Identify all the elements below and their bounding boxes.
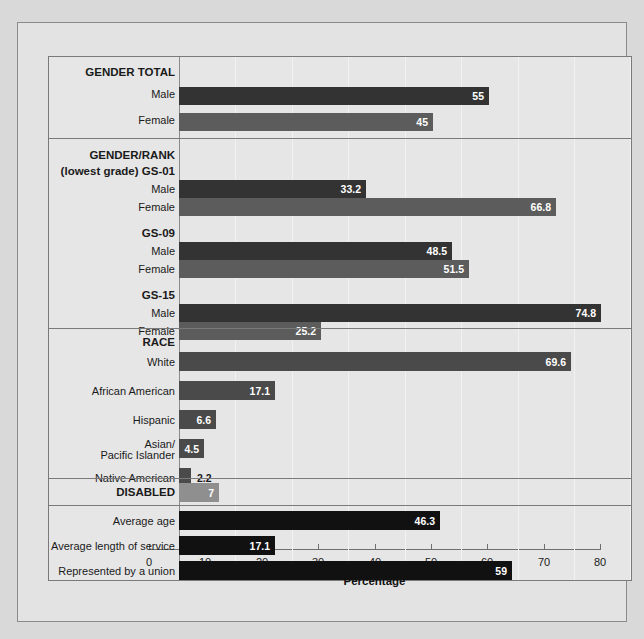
bar-represented-by-union[interactable]: 59 bbox=[179, 561, 512, 580]
bar-disabled[interactable]: 7 bbox=[179, 483, 219, 502]
bar-average-age[interactable]: 46.3 bbox=[179, 511, 440, 530]
row-average-age: Average age 46.3 bbox=[49, 511, 631, 536]
bar-gs01-male[interactable]: 33.2 bbox=[179, 180, 366, 198]
bar-value-hispanic: 6.6 bbox=[196, 414, 211, 425]
row-label-average-length-of-service: Average length of service bbox=[20, 536, 175, 556]
bar-average-length-of-service[interactable]: 17.1 bbox=[179, 536, 275, 555]
subheading-gs15: GS-15 bbox=[20, 287, 175, 304]
row-disabled: DISABLED 7 bbox=[49, 483, 631, 503]
asian-label-line2: Pacific Islander bbox=[20, 450, 175, 461]
row-gs15-heading: GS-15 bbox=[49, 287, 631, 304]
bar-value-gs01-female: 66.8 bbox=[531, 202, 551, 213]
bar-value-represented-by-union: 59 bbox=[495, 565, 507, 576]
chart-plot-panel: GENDER TOTAL Male 55 Female 45 bbox=[48, 56, 632, 581]
spacer-gs09-gs15 bbox=[49, 278, 631, 287]
row-label-gs09-female: Female bbox=[20, 260, 175, 278]
subheading-gs01: (lowest grade) GS-01 bbox=[20, 163, 175, 180]
row-female-total: Female 45 bbox=[49, 109, 631, 137]
row-label-hispanic: Hispanic bbox=[20, 410, 175, 430]
row-label-represented-by-union: Represented by a union bbox=[20, 561, 175, 581]
group-summary: Average age 46.3 Average length of servi… bbox=[49, 505, 631, 578]
row-hispanic: Hispanic 6.6 bbox=[49, 410, 631, 439]
row-label-female: Female bbox=[20, 109, 175, 131]
bar-value-average-age: 46.3 bbox=[415, 515, 435, 526]
row-gs09-male: Male 48.5 bbox=[49, 242, 631, 260]
bar-white[interactable]: 69.6 bbox=[179, 352, 571, 371]
row-race-heading: RACE bbox=[49, 333, 631, 352]
heading-disabled: DISABLED bbox=[20, 483, 175, 502]
row-gs01-female: Female 66.8 bbox=[49, 198, 631, 216]
row-male-total: Male 55 bbox=[49, 83, 631, 109]
bar-gs15-male[interactable]: 74.8 bbox=[179, 304, 601, 322]
row-gs09-heading: GS-09 bbox=[49, 225, 631, 242]
row-gs09-female: Female 51.5 bbox=[49, 260, 631, 278]
row-label-average-age: Average age bbox=[20, 511, 175, 531]
spacer-gs01-gs09 bbox=[49, 216, 631, 225]
row-label-gs15-male: Male bbox=[20, 304, 175, 322]
group-disabled: DISABLED 7 bbox=[49, 478, 631, 505]
bar-value-gs15-male: 74.8 bbox=[576, 308, 596, 319]
row-average-length-of-service: Average length of service 17.1 bbox=[49, 536, 631, 561]
bar-value-disabled: 7 bbox=[208, 487, 214, 498]
bar-female-total[interactable]: 45 bbox=[179, 113, 433, 131]
subheading-gs09: GS-09 bbox=[20, 225, 175, 242]
bar-asian-pacific-islander[interactable]: 4.5 bbox=[179, 439, 204, 458]
bar-value-gs09-male: 48.5 bbox=[427, 246, 447, 257]
group-race: RACE White 69.6 African American 17.1 bbox=[49, 328, 631, 478]
group-gender-total: GENDER TOTAL Male 55 Female 45 bbox=[49, 57, 631, 138]
row-label-male: Male bbox=[20, 83, 175, 105]
bar-african-american[interactable]: 17.1 bbox=[179, 381, 275, 400]
bar-value-average-length-of-service: 17.1 bbox=[250, 540, 270, 551]
bar-value-male-total: 55 bbox=[472, 91, 484, 102]
row-gender-rank-heading: GENDER/RANK bbox=[49, 144, 631, 163]
row-label-white: White bbox=[20, 352, 175, 372]
row-white: White 69.6 bbox=[49, 352, 631, 381]
row-gs01-heading: (lowest grade) GS-01 bbox=[49, 163, 631, 180]
bar-value-gs01-male: 33.2 bbox=[341, 184, 361, 195]
chart-outer-frame: GENDER TOTAL Male 55 Female 45 bbox=[17, 22, 627, 622]
bar-value-asian-pacific-islander: 4.5 bbox=[184, 443, 199, 454]
bar-value-gs09-female: 51.5 bbox=[444, 264, 464, 275]
row-label-gs01-female: Female bbox=[20, 198, 175, 216]
row-label-gs01-male: Male bbox=[20, 180, 175, 198]
row-asian-pacific-islander: Asian/ Pacific Islander 4.5 bbox=[49, 439, 631, 468]
row-african-american: African American 17.1 bbox=[49, 381, 631, 410]
row-represented-by-union: Represented by a union 59 bbox=[49, 561, 631, 584]
bar-value-female-total: 45 bbox=[416, 117, 428, 128]
row-label-asian-pacific-islander: Asian/ Pacific Islander bbox=[20, 438, 175, 461]
bar-value-african-american: 17.1 bbox=[250, 385, 270, 396]
group-gender-rank: GENDER/RANK (lowest grade) GS-01 Male 33… bbox=[49, 138, 631, 328]
row-label-african-american: African American bbox=[20, 381, 175, 401]
row-label-gs09-male: Male bbox=[20, 242, 175, 260]
heading-race: RACE bbox=[20, 333, 175, 352]
bar-gs01-female[interactable]: 66.8 bbox=[179, 198, 556, 216]
bar-male-total[interactable]: 55 bbox=[179, 87, 489, 105]
heading-gender-total: GENDER TOTAL bbox=[20, 61, 175, 83]
bar-gs09-male[interactable]: 48.5 bbox=[179, 242, 452, 260]
row-gs01-male: Male 33.2 bbox=[49, 180, 631, 198]
bar-value-white: 69.6 bbox=[546, 356, 566, 367]
row-gender-total-heading: GENDER TOTAL bbox=[49, 61, 631, 83]
bar-hispanic[interactable]: 6.6 bbox=[179, 410, 216, 429]
bar-gs09-female[interactable]: 51.5 bbox=[179, 260, 469, 278]
row-gs15-male: Male 74.8 bbox=[49, 304, 631, 322]
